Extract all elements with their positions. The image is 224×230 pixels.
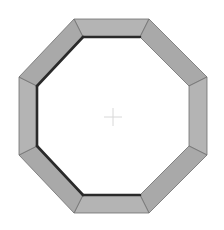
center-crosshair-icon [104, 108, 122, 126]
segment-top-right [140, 19, 207, 86]
segment-bottom-left [19, 146, 83, 213]
segment-top [74, 19, 149, 37]
octagon-frame-diagram [0, 0, 224, 230]
segment-right [189, 77, 207, 155]
segment-bottom-right [140, 146, 207, 213]
segment-top-left [19, 19, 83, 86]
segment-left [19, 77, 37, 155]
segment-bottom [74, 195, 149, 213]
